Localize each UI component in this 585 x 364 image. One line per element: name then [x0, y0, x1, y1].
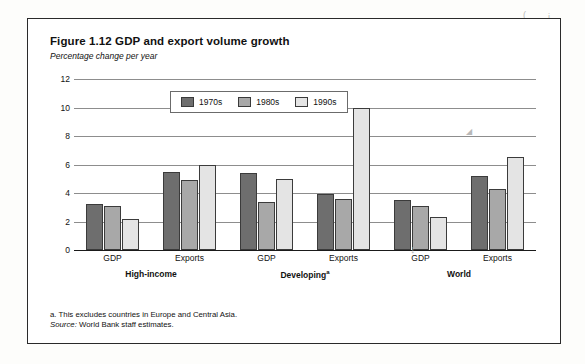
- y-tick-label: 12: [50, 74, 70, 84]
- legend-swatch: [181, 97, 194, 107]
- y-tick-label: 4: [50, 188, 70, 198]
- figure-container: Figure 1.12 GDP and export volume growth…: [27, 18, 561, 344]
- figure-subtitle: Percentage change per year: [50, 51, 540, 61]
- figure-source: Source: World Bank staff estimates.: [50, 320, 520, 331]
- scan-artifact-mid-bottom: ↓: [410, 243, 416, 255]
- bar: [317, 194, 334, 250]
- category-label: Exports: [329, 253, 358, 263]
- bar: [122, 219, 139, 250]
- legend-swatch: [295, 97, 308, 107]
- legend-label: 1980s: [256, 97, 279, 107]
- figure-title: Figure 1.12 GDP and export volume growth: [50, 35, 540, 47]
- scan-artifact-mid-right: ◢: [466, 127, 472, 136]
- y-tick-label: 8: [50, 131, 70, 141]
- bar: [104, 206, 121, 250]
- bar: [240, 173, 257, 250]
- bar: [430, 217, 447, 250]
- legend-swatch: [238, 97, 251, 107]
- bar: [163, 172, 180, 250]
- region-label: Developinga: [280, 269, 329, 280]
- x-axis-line: [74, 250, 536, 251]
- category-label: GDP: [257, 253, 275, 263]
- y-axis-tick-labels: 024681012: [50, 79, 70, 250]
- bar: [489, 189, 506, 250]
- bar: [335, 199, 352, 250]
- region-axis-labels: High-incomeDevelopingaWorld: [74, 269, 536, 283]
- y-tick-label: 6: [50, 160, 70, 170]
- bar: [199, 165, 216, 251]
- y-tick-label: 2: [50, 217, 70, 227]
- bar: [353, 108, 370, 251]
- chart-legend: 1970s1980s1990s: [170, 91, 348, 113]
- page-background: ( i Figure 1.12 GDP and export volume gr…: [0, 0, 585, 364]
- category-label: Exports: [175, 253, 204, 263]
- bar: [394, 200, 411, 250]
- legend-item: 1970s: [181, 97, 222, 107]
- bar: [258, 202, 275, 250]
- category-label: GDP: [103, 253, 121, 263]
- bar: [181, 180, 198, 250]
- y-tick-label: 10: [50, 103, 70, 113]
- bar: [276, 179, 293, 250]
- chart-plot-area: 024681012 1970s1980s1990s GDPExportsGDPE…: [50, 79, 538, 279]
- category-axis-labels: GDPExportsGDPExportsGDPExports: [74, 253, 536, 267]
- region-footnote-marker: a: [326, 269, 329, 275]
- source-text: World Bank staff estimates.: [77, 320, 174, 329]
- legend-label: 1990s: [313, 97, 336, 107]
- source-label: Source:: [50, 320, 77, 329]
- legend-item: 1980s: [238, 97, 279, 107]
- category-label: Exports: [483, 253, 512, 263]
- bar: [471, 176, 488, 250]
- figure-inner: Figure 1.12 GDP and export volume growth…: [28, 19, 560, 343]
- legend-label: 1970s: [199, 97, 222, 107]
- legend-item: 1990s: [295, 97, 336, 107]
- bar: [507, 157, 524, 250]
- figure-footnotes: a. This excludes countries in Europe and…: [50, 310, 520, 331]
- footnote-a: a. This excludes countries in Europe and…: [50, 310, 520, 321]
- bar: [86, 204, 103, 250]
- y-tick-label: 0: [50, 245, 70, 255]
- region-label: High-income: [125, 269, 176, 279]
- region-label: World: [447, 269, 471, 279]
